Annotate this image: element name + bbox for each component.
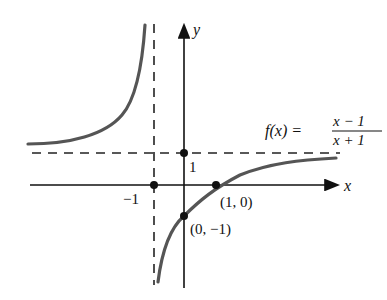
point-label-zero-minus-one: (0, −1) bbox=[190, 221, 231, 238]
curve-left-branch bbox=[28, 25, 145, 144]
point-one-zero bbox=[212, 181, 220, 189]
point-y-intercept-1 bbox=[180, 149, 188, 157]
function-graph: y x 1 −1 (1, 0) (0, −1) f(x) = x − 1 x +… bbox=[0, 0, 387, 300]
function-label: f(x) = bbox=[265, 122, 302, 140]
y-axis-label: y bbox=[191, 21, 201, 39]
point-zero-minus-one bbox=[180, 212, 188, 220]
x-axis-label: x bbox=[343, 177, 351, 194]
point-x-minus-one bbox=[150, 181, 158, 189]
function-numerator: x − 1 bbox=[332, 113, 365, 129]
function-denominator: x + 1 bbox=[332, 132, 365, 148]
tick-label-x-minus-one: −1 bbox=[123, 191, 139, 207]
point-label-one-zero: (1, 0) bbox=[220, 194, 253, 211]
tick-label-y-one: 1 bbox=[189, 159, 197, 175]
